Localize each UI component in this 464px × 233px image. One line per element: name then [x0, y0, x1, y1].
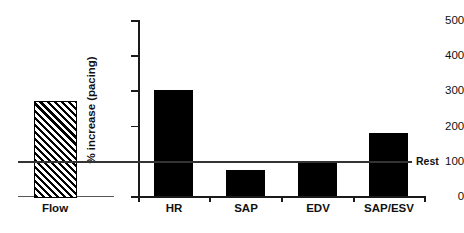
- figure-chart-percent-increase-pacing: % increase (pacing) 500 400 300 200 100 …: [0, 0, 464, 233]
- x-category-label-edv: EDV: [287, 202, 349, 214]
- y-axis-spine: [138, 20, 140, 197]
- y-tick-mark-300: [131, 90, 138, 92]
- bar-edv[interactable]: [298, 161, 337, 196]
- x-category-label-hr: HR: [143, 202, 205, 214]
- y-tick-label-500: 500: [336, 15, 464, 26]
- y-tick-mark-0: [131, 196, 138, 198]
- rest-reference-label: Rest: [416, 155, 439, 167]
- x-category-label-sap: SAP: [215, 202, 277, 214]
- bar-sap[interactable]: [226, 170, 265, 196]
- y-tick-label-200: 200: [336, 121, 464, 132]
- bar-flow[interactable]: [34, 101, 77, 198]
- y-tick-mark-500: [131, 20, 138, 22]
- y-tick-mark-400: [131, 55, 138, 57]
- y-tick-label-300: 300: [336, 85, 464, 96]
- x-tick-mark-2: [281, 196, 283, 202]
- y-axis-title: % increase (pacing): [85, 15, 97, 205]
- y-tick-label-400: 400: [336, 50, 464, 61]
- rest-reference-line: [18, 161, 412, 163]
- x-tick-mark-0: [138, 196, 140, 202]
- bar-sap-esv[interactable]: [369, 133, 408, 196]
- x-tick-mark-1: [209, 196, 211, 202]
- bar-hr[interactable]: [154, 90, 193, 196]
- x-category-label-sap-esv: SAP/ESV: [348, 202, 430, 214]
- y-tick-mark-200: [131, 126, 138, 128]
- x-category-label-flow: Flow: [24, 202, 86, 214]
